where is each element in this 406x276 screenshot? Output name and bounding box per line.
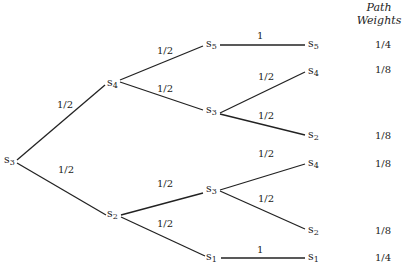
node-leaf-5: s2 [308,224,319,239]
node-subscript: 3 [212,108,217,117]
edge-label-s1-s1: 1 [257,244,263,256]
node-leaf-3: s2 [308,129,319,144]
node-subscript: 4 [314,161,319,170]
edge-label-root-s2: 1/2 [58,164,74,176]
edge-label-s2-s1: 1/2 [157,218,173,230]
edge-root-s4 [17,85,105,160]
header-line-1: Path [352,1,406,14]
node-l2-b: s3 [206,104,217,119]
header-line-2: Weights [352,14,406,27]
node-subscript: 1 [314,255,319,264]
path-weight-3: 1/8 [375,130,391,142]
node-leaf-2: s4 [308,65,319,80]
path-weight-1: 1/4 [375,39,391,51]
probability-tree-diagram: Path Weights s3 s4 s2 s5 s3 s3 s1 s5 s4 … [0,0,406,276]
node-subscript: 3 [10,158,15,167]
path-weight-2: 1/8 [375,64,391,76]
node-leaf-4: s4 [308,157,319,172]
node-subscript: 2 [314,228,319,237]
path-weight-6: 1/4 [375,252,391,264]
edge-label-root-s4: 1/2 [57,99,73,111]
edge-label-s3a-s2: 1/2 [258,110,274,122]
node-subscript: 4 [314,69,319,78]
path-weight-4: 1/8 [375,158,391,170]
node-l2-d: s1 [206,251,217,266]
node-subscript: 3 [212,187,217,196]
node-l1-bottom: s2 [107,208,118,223]
node-subscript: 1 [212,255,217,264]
node-l2-a: s5 [206,38,217,53]
edge-label-s3b-s4: 1/2 [258,148,274,160]
node-subscript: 2 [113,212,118,221]
path-weights-header: Path Weights [352,1,406,27]
node-l2-c: s3 [206,183,217,198]
edge-label-s3a-s4: 1/2 [258,71,274,83]
node-subscript: 5 [212,42,217,51]
edge-s2-s3 [121,193,203,215]
edge-label-s4-s5: 1/2 [157,45,173,57]
node-leaf-1: s5 [308,38,319,53]
edge-label-s4-s3: 1/2 [157,83,173,95]
edge-s3b-s4 [220,164,305,190]
edge-label-s5-s5: 1 [257,30,263,42]
node-root: s3 [4,154,15,169]
tree-edges [0,0,406,276]
node-subscript: 5 [314,42,319,51]
node-leaf-6: s1 [308,251,319,266]
edge-label-s3b-s2: 1/2 [258,193,274,205]
node-subscript: 2 [314,133,319,142]
node-l1-top: s4 [107,77,118,92]
edge-label-s2-s3: 1/2 [157,178,173,190]
node-subscript: 4 [113,81,118,90]
path-weight-5: 1/8 [375,225,391,237]
